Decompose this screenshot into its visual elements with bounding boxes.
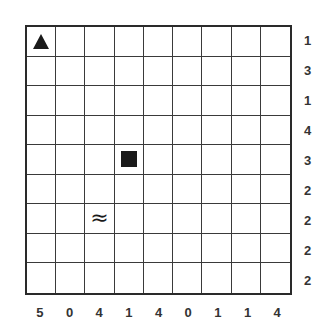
grid-cell-r4-c0[interactable] xyxy=(27,145,56,175)
grid-cell-r5-c6[interactable] xyxy=(202,175,231,205)
grid-cell-r6-c2[interactable]: ≈ xyxy=(85,204,114,234)
grid-cell-r2-c4[interactable] xyxy=(144,86,173,116)
grid-cell-r5-c8[interactable] xyxy=(261,175,290,205)
grid-cell-r1-c1[interactable] xyxy=(56,57,85,87)
grid-cell-r3-c4[interactable] xyxy=(144,116,173,146)
grid-cell-r3-c1[interactable] xyxy=(56,116,85,146)
grid-cell-r5-c3[interactable] xyxy=(115,175,144,205)
grid-cell-r8-c4[interactable] xyxy=(144,263,173,293)
grid-cell-r1-c6[interactable] xyxy=(202,57,231,87)
grid-cell-r1-c8[interactable] xyxy=(261,57,290,87)
grid-cell-r7-c3[interactable] xyxy=(115,234,144,264)
column-clue-4: 4 xyxy=(144,300,174,324)
grid-cell-r7-c5[interactable] xyxy=(173,234,202,264)
triangle-icon xyxy=(33,34,49,49)
grid-cell-r4-c8[interactable] xyxy=(261,145,290,175)
grid-cell-r4-c3[interactable] xyxy=(115,145,144,175)
row-clue-4: 3 xyxy=(300,145,324,175)
column-clue-0: 5 xyxy=(25,300,55,324)
grid-cell-r4-c2[interactable] xyxy=(85,145,114,175)
grid-cell-r3-c8[interactable] xyxy=(261,116,290,146)
column-clues: 504140114 xyxy=(25,300,292,324)
grid-cell-r6-c0[interactable] xyxy=(27,204,56,234)
grid-cell-r3-c6[interactable] xyxy=(202,116,231,146)
grid-cell-r1-c7[interactable] xyxy=(232,57,261,87)
grid-cell-r1-c4[interactable] xyxy=(144,57,173,87)
grid-cell-r2-c7[interactable] xyxy=(232,86,261,116)
grid-cell-r0-c5[interactable] xyxy=(173,27,202,57)
grid-cell-r4-c1[interactable] xyxy=(56,145,85,175)
grid-cell-r8-c2[interactable] xyxy=(85,263,114,293)
grid-cell-r3-c0[interactable] xyxy=(27,116,56,146)
grid-cell-r0-c2[interactable] xyxy=(85,27,114,57)
grid-cell-r8-c6[interactable] xyxy=(202,263,231,293)
row-clue-2: 1 xyxy=(300,85,324,115)
grid-cell-r0-c1[interactable] xyxy=(56,27,85,57)
row-clues: 131432222 xyxy=(300,25,324,295)
grid-cell-r1-c5[interactable] xyxy=(173,57,202,87)
grid-cell-r2-c5[interactable] xyxy=(173,86,202,116)
grid-cell-r6-c3[interactable] xyxy=(115,204,144,234)
grid-cell-r3-c3[interactable] xyxy=(115,116,144,146)
grid-cell-r2-c3[interactable] xyxy=(115,86,144,116)
grid-cell-r7-c4[interactable] xyxy=(144,234,173,264)
grid-cell-r0-c8[interactable] xyxy=(261,27,290,57)
square-icon xyxy=(121,151,137,167)
grid-cell-r5-c5[interactable] xyxy=(173,175,202,205)
grid-cell-r8-c0[interactable] xyxy=(27,263,56,293)
grid-cell-r2-c2[interactable] xyxy=(85,86,114,116)
grid-cell-r8-c5[interactable] xyxy=(173,263,202,293)
grid-cell-r3-c7[interactable] xyxy=(232,116,261,146)
grid-cell-r5-c0[interactable] xyxy=(27,175,56,205)
grid-cell-r0-c4[interactable] xyxy=(144,27,173,57)
grid-cell-r4-c6[interactable] xyxy=(202,145,231,175)
grid-cell-r6-c4[interactable] xyxy=(144,204,173,234)
grid-cell-r6-c5[interactable] xyxy=(173,204,202,234)
grid-cell-r8-c8[interactable] xyxy=(261,263,290,293)
row-clue-8: 2 xyxy=(300,265,324,295)
grid-cell-r3-c2[interactable] xyxy=(85,116,114,146)
grid-cell-r7-c1[interactable] xyxy=(56,234,85,264)
grid-cell-r7-c8[interactable] xyxy=(261,234,290,264)
row-clue-0: 1 xyxy=(300,25,324,55)
grid-cell-r5-c4[interactable] xyxy=(144,175,173,205)
grid-cell-r2-c1[interactable] xyxy=(56,86,85,116)
puzzle-grid: ≈ xyxy=(25,25,292,295)
grid-cell-r7-c0[interactable] xyxy=(27,234,56,264)
grid-cell-r6-c1[interactable] xyxy=(56,204,85,234)
grid-cell-r0-c0[interactable] xyxy=(27,27,56,57)
row-clue-3: 4 xyxy=(300,115,324,145)
grid-cell-r8-c3[interactable] xyxy=(115,263,144,293)
grid-cell-r2-c8[interactable] xyxy=(261,86,290,116)
grid-cell-r5-c1[interactable] xyxy=(56,175,85,205)
grid-cell-r1-c2[interactable] xyxy=(85,57,114,87)
column-clue-5: 0 xyxy=(173,300,203,324)
grid-cell-r7-c6[interactable] xyxy=(202,234,231,264)
grid-cell-r4-c4[interactable] xyxy=(144,145,173,175)
grid-cell-r7-c2[interactable] xyxy=(85,234,114,264)
grid-cell-r0-c6[interactable] xyxy=(202,27,231,57)
grid-cell-r0-c7[interactable] xyxy=(232,27,261,57)
grid-cell-r6-c6[interactable] xyxy=(202,204,231,234)
grid-cell-r6-c7[interactable] xyxy=(232,204,261,234)
grid-cell-r2-c6[interactable] xyxy=(202,86,231,116)
grid-cell-r4-c7[interactable] xyxy=(232,145,261,175)
grid-cell-r5-c2[interactable] xyxy=(85,175,114,205)
row-clue-1: 3 xyxy=(300,55,324,85)
grid-cell-r8-c7[interactable] xyxy=(232,263,261,293)
row-clue-7: 2 xyxy=(300,235,324,265)
column-clue-7: 1 xyxy=(233,300,263,324)
grid-cell-r1-c3[interactable] xyxy=(115,57,144,87)
column-clue-8: 4 xyxy=(262,300,292,324)
grid-cell-r4-c5[interactable] xyxy=(173,145,202,175)
grid-cell-r1-c0[interactable] xyxy=(27,57,56,87)
column-clue-6: 1 xyxy=(203,300,233,324)
grid-cell-r5-c7[interactable] xyxy=(232,175,261,205)
grid-cell-r2-c0[interactable] xyxy=(27,86,56,116)
grid-cell-r0-c3[interactable] xyxy=(115,27,144,57)
row-clue-6: 2 xyxy=(300,205,324,235)
grid-cell-r6-c8[interactable] xyxy=(261,204,290,234)
grid-cell-r8-c1[interactable] xyxy=(56,263,85,293)
grid-cell-r7-c7[interactable] xyxy=(232,234,261,264)
grid-cell-r3-c5[interactable] xyxy=(173,116,202,146)
